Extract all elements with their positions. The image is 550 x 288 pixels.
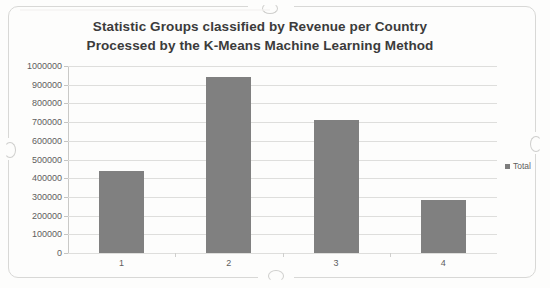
chart-title-line-2: Processed by the K-Means Machine Learnin… — [40, 36, 480, 55]
y-axis-tick — [64, 141, 68, 142]
y-axis-tick — [64, 234, 68, 235]
y-axis-tick — [64, 197, 68, 198]
y-axis-tick — [64, 122, 68, 123]
scan-edge-gap-top — [248, 3, 294, 11]
y-axis-tick — [64, 160, 68, 161]
bar — [421, 200, 466, 253]
chart-title-line-1: Statistic Groups classified by Revenue p… — [40, 17, 480, 36]
chart-legend: Total — [505, 161, 531, 171]
gridline — [68, 66, 497, 67]
scan-notch-right-icon — [530, 136, 542, 152]
y-axis-tick — [64, 253, 68, 254]
y-axis-tick-label: 100000 — [32, 229, 62, 239]
y-axis-tick-label: 1000000 — [27, 61, 62, 71]
y-axis-tick — [64, 216, 68, 217]
x-axis-tick — [283, 253, 284, 257]
y-axis-tick-label: 800000 — [32, 98, 62, 108]
legend-square-icon — [505, 164, 510, 169]
legend-entry-total: Total — [513, 161, 531, 171]
chart-screenshot: Statistic Groups classified by Revenue p… — [0, 0, 550, 288]
gridline — [68, 122, 497, 123]
plot-area — [68, 66, 497, 253]
y-axis-tick — [64, 178, 68, 179]
bar — [206, 77, 251, 253]
gridline — [68, 160, 497, 161]
bar — [99, 171, 144, 253]
y-axis-tick-label: 600000 — [32, 136, 62, 146]
scan-edge-gap-right — [531, 132, 540, 154]
y-axis-tick — [64, 85, 68, 86]
y-axis-tick-label: 900000 — [32, 80, 62, 90]
y-axis-tick-label: 700000 — [32, 117, 62, 127]
y-axis-labels: 1000000900000800000700000600000500000400… — [0, 0, 62, 288]
y-axis-tick — [64, 103, 68, 104]
x-axis-tick — [390, 253, 391, 257]
y-axis-tick-label: 400000 — [32, 173, 62, 183]
y-axis-tick-label: 200000 — [32, 211, 62, 221]
x-axis-tick-label: 2 — [209, 258, 249, 269]
x-axis-tick-label: 1 — [102, 258, 142, 269]
y-axis-tick-label: 300000 — [32, 192, 62, 202]
x-axis-tick-label: 3 — [316, 258, 356, 269]
x-axis-tick-label: 4 — [423, 258, 463, 269]
y-axis-tick-label: 500000 — [32, 155, 62, 165]
x-axis-tick — [175, 253, 176, 257]
scan-edge-gap-bottom — [258, 272, 294, 282]
gridline — [68, 141, 497, 142]
gridline — [68, 85, 497, 86]
scan-notch-top-icon — [262, 3, 278, 14]
y-axis-tick-label: 0 — [57, 248, 62, 258]
gridline — [68, 103, 497, 104]
chart-title: Statistic Groups classified by Revenue p… — [40, 17, 480, 55]
bar — [314, 120, 359, 253]
y-axis-tick — [64, 66, 68, 67]
scan-notch-bottom-icon — [268, 270, 284, 282]
